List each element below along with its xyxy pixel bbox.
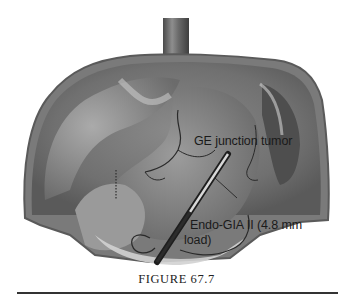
caption-rule xyxy=(17,292,338,294)
figure-67-7: GE junction tumor Endo-GIA II (4.8 mm lo… xyxy=(0,0,353,297)
label-endo-gia-line2: load) xyxy=(184,234,211,247)
label-ge-junction-tumor: GE junction tumor xyxy=(194,135,292,148)
anatomical-illustration xyxy=(0,0,353,297)
figure-caption: FIGURE 67.7 xyxy=(0,272,353,287)
label-endo-gia-line1: Endo-GIA II (4.8 mm xyxy=(190,219,302,232)
